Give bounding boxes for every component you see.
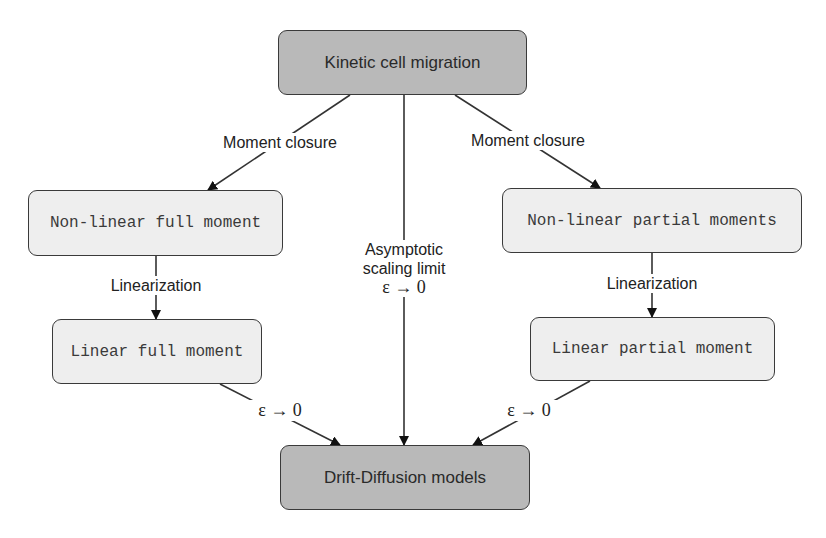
node-nonlinear-partial-moments: Non-linear partial moments xyxy=(502,188,802,253)
node-label: Linear full moment xyxy=(71,343,244,361)
node-label: Kinetic cell migration xyxy=(325,53,481,73)
edge-label-asymptotic-scaling: Asymptotic scaling limit ε → 0 xyxy=(348,240,460,297)
node-label: Drift-Diffusion models xyxy=(324,468,486,488)
node-linear-full-moment: Linear full moment xyxy=(52,319,262,384)
asymptotic-line-3: ε → 0 xyxy=(348,278,460,297)
asymptotic-line-1: Asymptotic xyxy=(348,240,460,259)
node-kinetic-cell-migration: Kinetic cell migration xyxy=(278,30,527,95)
node-nonlinear-full-moment: Non-linear full moment xyxy=(28,190,283,256)
node-linear-partial-moment: Linear partial moment xyxy=(530,317,775,381)
edge-label-linearization-left: Linearization xyxy=(100,276,212,295)
edge-label-moment-closure-right: Moment closure xyxy=(458,131,598,150)
edge-label-moment-closure-left: Moment closure xyxy=(210,133,350,152)
edge-label-linearization-right: Linearization xyxy=(596,274,708,293)
node-label: Non-linear full moment xyxy=(50,214,261,232)
edge-label-eps-right: ε → 0 xyxy=(496,400,562,421)
node-label: Linear partial moment xyxy=(552,340,754,358)
node-drift-diffusion-models: Drift-Diffusion models xyxy=(280,445,530,510)
node-label: Non-linear partial moments xyxy=(527,212,777,230)
asymptotic-line-2: scaling limit xyxy=(348,259,460,278)
edge-label-eps-left: ε → 0 xyxy=(247,400,313,421)
